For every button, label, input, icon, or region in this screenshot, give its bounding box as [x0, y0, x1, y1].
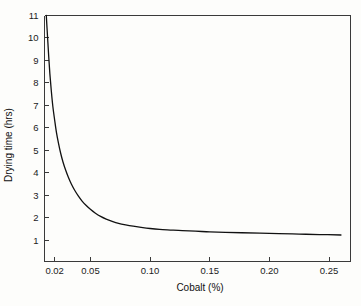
plot-frame	[45, 16, 351, 262]
y-tick-label: 10	[28, 32, 39, 43]
x-axis-title: Cobalt (%)	[176, 282, 223, 293]
data-curve	[46, 16, 341, 235]
axes	[45, 16, 351, 262]
y-tick-label: 9	[33, 55, 38, 66]
y-tick-label: 3	[33, 190, 38, 201]
y-tick-label: 7	[33, 100, 38, 111]
y-tick-label: 1	[33, 235, 38, 246]
drying-time-chart: 0.020.050.100.150.200.25 1234567891011 C…	[0, 0, 361, 306]
data-series-group	[46, 16, 341, 235]
x-tick-label: 0.10	[141, 265, 160, 276]
y-tick-label: 4	[33, 167, 38, 178]
y-tick-label: 5	[33, 145, 38, 156]
x-tick-label: 0.05	[81, 265, 100, 276]
x-tick-label: 0.15	[200, 265, 219, 276]
y-tick-label: 11	[29, 10, 39, 21]
y-tick-label: 8	[33, 77, 38, 88]
x-tick-label: 0.25	[320, 265, 339, 276]
x-tick-label: 0.20	[260, 265, 279, 276]
y-axis-title: Drying time (hrs)	[3, 108, 14, 182]
chart-page: 0.020.050.100.150.200.25 1234567891011 C…	[0, 0, 361, 306]
y-tick-label: 6	[33, 122, 38, 133]
x-axis-ticks: 0.020.050.100.150.200.25	[45, 257, 338, 276]
y-tick-label: 2	[33, 212, 38, 223]
y-axis-ticks: 1234567891011	[28, 10, 49, 246]
x-tick-label: 0.02	[45, 265, 64, 276]
